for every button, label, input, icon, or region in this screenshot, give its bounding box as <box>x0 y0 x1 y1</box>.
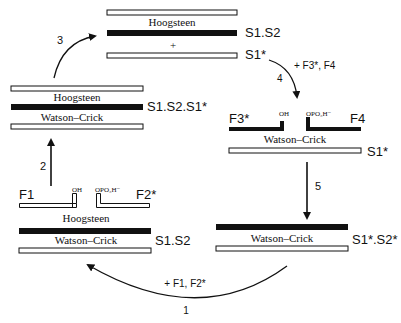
free-strand-label: S1* <box>245 47 266 62</box>
step-4-number: 4 <box>277 73 283 84</box>
open-strand <box>216 246 348 251</box>
ligation-cycle-diagram: Hoogsteen S1.S2 + S1* Hoogsteen S1.S2.S1… <box>0 0 401 323</box>
bottom-right-complex: Watson–Crick S1*.S2* <box>216 224 398 251</box>
oh-label: OH <box>72 186 82 194</box>
template-strand <box>229 148 361 153</box>
open-strand-bottom <box>11 124 143 129</box>
fragment-f2-label: F2* <box>136 187 156 202</box>
step-1-number: 1 <box>183 305 189 316</box>
right-complex: F3* OH OPO₃H⁻ F4 Watson–Crick S1* <box>229 110 388 159</box>
top-complex: Hoogsteen S1.S2 + S1* <box>107 10 280 62</box>
phosphate-label: OPO₃H⁻ <box>95 186 120 194</box>
hoogsteen-label: Hoogsteen <box>62 212 110 224</box>
watson-crick-label: Watson–Crick <box>251 232 314 244</box>
dark-strand <box>216 224 348 230</box>
complex-label: S1.S2.S1* <box>147 99 207 114</box>
complex-label: S1*.S2* <box>352 232 398 247</box>
hoogsteen-label: Hoogsteen <box>148 16 196 28</box>
fragment-f1-label: F1 <box>19 187 34 202</box>
step-4-reagents: + F3*, F4 <box>294 60 336 71</box>
step-2-number: 2 <box>40 160 46 172</box>
fragment-f3-label: F3* <box>229 111 249 126</box>
oh-label: OH <box>279 110 289 118</box>
dark-strand <box>11 104 143 110</box>
step-4-arrow <box>269 60 297 97</box>
step-1-reagents: + F1, F2* <box>164 278 206 289</box>
arrows: + F1, F2* 1 2 3 4 + F3*, F4 5 <box>40 34 336 316</box>
plus-sign: + <box>170 39 176 51</box>
strand-label: S1* <box>367 144 388 159</box>
free-strand <box>107 53 237 58</box>
dark-strand <box>107 30 237 36</box>
open-strand <box>107 10 237 15</box>
complex-label: S1.S2 <box>245 25 280 40</box>
watson-crick-label: Watson–Crick <box>264 133 327 145</box>
watson-crick-label: Watson–Crick <box>55 234 118 246</box>
fragment-f4-label: F4 <box>350 111 365 126</box>
complex-label: S1.S2 <box>155 233 190 248</box>
open-strand <box>19 248 151 253</box>
step-5-number: 5 <box>315 180 321 192</box>
hoogsteen-label: Hoogsteen <box>53 91 101 103</box>
phosphate-label: OPO₃H⁻ <box>306 110 331 118</box>
watson-crick-label: Watson–Crick <box>41 111 104 123</box>
step-3-number: 3 <box>57 34 63 46</box>
left-complex: Hoogsteen S1.S2.S1* Watson–Crick <box>11 86 207 129</box>
bottom-left-complex: F1 OH OPO₃H⁻ F2* Hoogsteen Watson–Crick … <box>19 186 190 253</box>
